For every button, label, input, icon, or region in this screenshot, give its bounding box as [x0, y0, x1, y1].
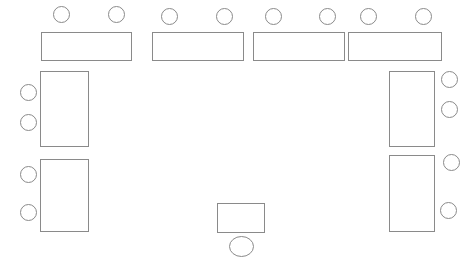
table-left-upper[interactable] — [41, 72, 89, 147]
seat-top-1[interactable] — [54, 7, 70, 23]
table-bottom-center[interactable] — [218, 204, 265, 233]
table-top-1[interactable] — [42, 33, 132, 61]
room-layout-diagram — [0, 0, 476, 270]
seat-top-8[interactable] — [416, 9, 432, 25]
seat-right-2[interactable] — [442, 102, 458, 118]
seat-bottom-center[interactable] — [230, 237, 254, 257]
seat-left-2[interactable] — [21, 115, 37, 131]
seat-top-7[interactable] — [361, 9, 377, 25]
table-left-lower[interactable] — [41, 160, 89, 232]
seat-left-3[interactable] — [21, 167, 37, 183]
seat-top-5[interactable] — [266, 9, 282, 25]
table-top-3[interactable] — [254, 33, 345, 61]
table-top-4[interactable] — [349, 33, 442, 61]
table-right-upper[interactable] — [390, 72, 435, 147]
seat-left-4[interactable] — [21, 205, 37, 221]
layout-svg-canvas — [0, 0, 476, 270]
seat-right-1[interactable] — [442, 72, 458, 88]
seat-right-4[interactable] — [441, 203, 457, 219]
seat-top-3[interactable] — [162, 9, 178, 25]
seat-top-6[interactable] — [320, 9, 336, 25]
table-right-lower[interactable] — [390, 156, 435, 232]
seat-right-3[interactable] — [444, 155, 460, 171]
seat-left-1[interactable] — [21, 85, 37, 101]
seat-top-4[interactable] — [217, 9, 233, 25]
table-top-2[interactable] — [153, 33, 244, 61]
seat-top-2[interactable] — [109, 7, 125, 23]
tables-group — [41, 33, 442, 233]
